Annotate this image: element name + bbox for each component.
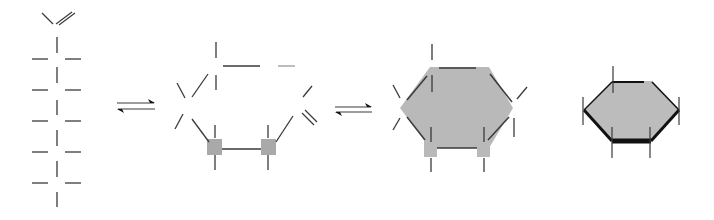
carbonyl-double-bond — [305, 110, 317, 122]
hexagon-ring-fill — [400, 67, 513, 148]
bond-line — [192, 119, 209, 142]
aldehyde-bond — [42, 13, 53, 24]
open-chain-structure — [32, 12, 81, 207]
diagram-canvas — [0, 0, 714, 220]
equilibrium-arrow-1 — [117, 99, 155, 113]
ring-closing-structure — [175, 42, 317, 170]
carbonyl-double-bond — [56, 12, 72, 24]
substituent-bond — [393, 118, 400, 130]
carbonyl-double-bond — [59, 13, 75, 25]
substituent-bond — [393, 85, 400, 98]
glucose-cyclization-diagram — [0, 0, 714, 220]
carbonyl-double-bond — [302, 113, 314, 125]
hexagon-ring-fill — [584, 81, 679, 141]
bond-line — [177, 83, 185, 98]
equilibrium-arrow-2 — [335, 103, 372, 116]
ring-corner-square — [477, 141, 490, 157]
carbon-atom-square — [261, 139, 276, 155]
bond-line — [192, 74, 208, 97]
bond-line — [276, 116, 293, 142]
bond-line — [175, 114, 183, 129]
substituent-bond — [517, 87, 527, 99]
ring-corner-square — [424, 141, 437, 157]
chair-ring-structure — [583, 66, 679, 158]
bond-line — [303, 86, 312, 97]
haworth-ring-structure — [393, 44, 527, 172]
